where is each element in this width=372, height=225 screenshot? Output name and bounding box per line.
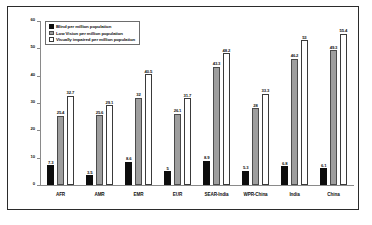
bar-slot: 6.1 <box>319 21 329 185</box>
chart-legend: Blind per million populationLow Vision p… <box>45 21 140 45</box>
x-axis-line <box>40 185 354 186</box>
bar-slot: 8.9 <box>202 21 212 185</box>
bar-slot: 49.3 <box>329 21 339 185</box>
bar-value-label: 40.5 <box>145 69 153 74</box>
x-axis-category-label: China <box>327 192 339 197</box>
bar-value-label: 46.2 <box>291 53 299 58</box>
bar[interactable]: 28 <box>252 108 259 185</box>
bar-group: 6.149.355.4China <box>314 21 353 185</box>
bar-slot: 26.1 <box>173 21 183 185</box>
bar[interactable]: 5.3 <box>242 171 249 185</box>
bar[interactable]: 33.3 <box>262 94 269 185</box>
bar-slot: 33.3 <box>260 21 270 185</box>
bar[interactable]: 5 <box>164 171 171 185</box>
bar-slot: 43.3 <box>212 21 222 185</box>
x-axis-category-label: SEAR-India <box>204 192 228 197</box>
bar-group-bars: 6.846.253 <box>280 21 310 185</box>
bar[interactable]: 32 <box>135 98 142 185</box>
bar-group-bars: 3.525.629.1 <box>85 21 115 185</box>
bar-value-label: 3.5 <box>87 170 92 175</box>
legend-label: Visually impaired per million population <box>56 37 135 42</box>
y-axis-tick-label: 60 <box>31 17 35 22</box>
bar[interactable]: 25.4 <box>57 116 64 185</box>
bar[interactable]: 40.5 <box>145 74 152 185</box>
bar-slot: 25.6 <box>95 21 105 185</box>
bar-slot: 48.2 <box>221 21 231 185</box>
bar-value-label: 53 <box>302 35 306 40</box>
bar[interactable]: 26.1 <box>174 114 181 185</box>
x-axis-category-label: EMR <box>134 192 144 197</box>
bar-value-label: 32 <box>136 92 140 97</box>
bar-value-label: 26.1 <box>174 108 182 113</box>
bar-slot: 6.8 <box>280 21 290 185</box>
bar-slot: 53 <box>299 21 309 185</box>
bar-group: 526.131.7EUR <box>158 21 197 185</box>
bar-value-label: 29.1 <box>106 100 114 105</box>
bar[interactable]: 29.1 <box>106 105 113 185</box>
bar[interactable]: 6.8 <box>281 166 288 185</box>
bar-group-bars: 8.63240.5 <box>124 21 154 185</box>
bar[interactable]: 8.6 <box>125 162 132 186</box>
bar-slot: 25.4 <box>56 21 66 185</box>
bar-slot: 8.6 <box>124 21 134 185</box>
bar-group-bars: 7.325.432.7 <box>46 21 76 185</box>
bar[interactable]: 32.7 <box>67 96 74 185</box>
bar-value-label: 5 <box>167 166 169 171</box>
bar[interactable]: 48.2 <box>223 53 230 185</box>
chart-canvas: 0102030405060 7.325.432.7AFR3.525.629.1A… <box>0 0 372 225</box>
bar[interactable]: 7.3 <box>47 165 54 185</box>
bar[interactable]: 46.2 <box>291 59 298 185</box>
legend-item[interactable]: Low Vision per million population <box>49 31 135 36</box>
bar-value-label: 49.3 <box>330 45 338 50</box>
bar-slot: 28 <box>251 21 261 185</box>
y-axis-tick-mark <box>37 158 40 159</box>
bar[interactable]: 43.3 <box>213 67 220 185</box>
legend-swatch-icon <box>49 31 54 36</box>
bar-value-label: 25.4 <box>57 110 65 115</box>
y-axis-tick-mark <box>37 21 40 22</box>
bar-slot: 29.1 <box>104 21 114 185</box>
bar-value-label: 8.6 <box>126 156 131 161</box>
bar-slot: 46.2 <box>290 21 300 185</box>
bar[interactable]: 25.6 <box>96 115 103 185</box>
bar-group-bars: 526.131.7 <box>163 21 193 185</box>
bar-value-label: 6.1 <box>321 163 326 168</box>
bar-value-label: 48.2 <box>223 48 231 53</box>
bar-slot: 55.4 <box>338 21 348 185</box>
y-axis-tick-label: 0 <box>33 181 35 186</box>
bar-slot: 7.3 <box>46 21 56 185</box>
y-axis-tick-label: 30 <box>31 99 35 104</box>
chart-frame: 0102030405060 7.325.432.7AFR3.525.629.1A… <box>7 6 359 210</box>
bar-value-label: 28 <box>253 103 257 108</box>
bar[interactable]: 55.4 <box>340 34 347 185</box>
bar-group: 3.525.629.1AMR <box>80 21 119 185</box>
bar-value-label: 5.3 <box>243 165 248 170</box>
bar[interactable]: 6.1 <box>320 168 327 185</box>
bar-slot: 5.3 <box>241 21 251 185</box>
bar-value-label: 43.3 <box>213 61 221 66</box>
bar-value-label: 8.9 <box>204 155 209 160</box>
x-axis-category-label: WPR-China <box>243 192 267 197</box>
y-axis-tick-label: 40 <box>31 72 35 77</box>
bar-group: 7.325.432.7AFR <box>41 21 80 185</box>
x-axis-category-label: AFR <box>56 192 65 197</box>
legend-item[interactable]: Blind per million population <box>49 24 135 29</box>
x-axis-category-label: EUR <box>173 192 182 197</box>
bar-groups: 7.325.432.7AFR3.525.629.1AMR8.63240.5EMR… <box>41 21 353 185</box>
bar[interactable]: 49.3 <box>330 50 337 185</box>
y-axis-tick-label: 10 <box>31 154 35 159</box>
bar-group: 8.943.348.2SEAR-India <box>197 21 236 185</box>
bar[interactable]: 3.5 <box>86 175 93 185</box>
bar-value-label: 31.7 <box>184 93 192 98</box>
bar[interactable]: 53 <box>301 40 308 185</box>
legend-item[interactable]: Visually impaired per million population <box>49 37 135 42</box>
bar[interactable]: 8.9 <box>203 161 210 185</box>
bar-group-bars: 5.32833.3 <box>241 21 271 185</box>
bar-value-label: 7.3 <box>48 160 53 165</box>
bar-slot: 5 <box>163 21 173 185</box>
x-axis-category-label: AMR <box>94 192 104 197</box>
bar-value-label: 55.4 <box>340 28 348 33</box>
bar-value-label: 25.6 <box>96 110 104 115</box>
bar[interactable]: 31.7 <box>184 98 191 185</box>
bar-slot: 32 <box>134 21 144 185</box>
